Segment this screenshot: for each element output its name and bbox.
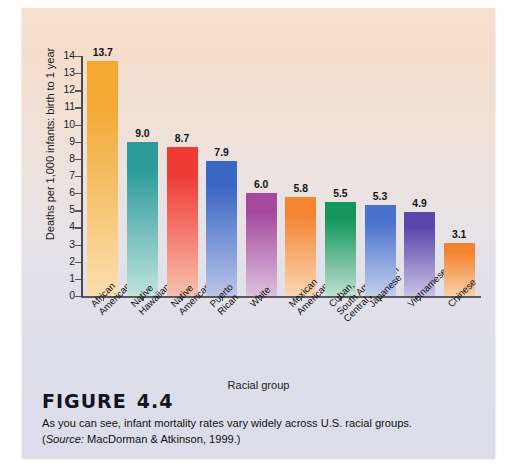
bar-slot[interactable]: 5.5Cuban,South American,Central American xyxy=(325,56,356,296)
y-tick-label: 3 xyxy=(55,239,75,250)
source-label: Source: xyxy=(46,433,84,445)
bar-slot[interactable]: 8.7NativeAmerican xyxy=(167,56,198,296)
bar[interactable] xyxy=(87,61,118,296)
figure-number: FIGURE4.4 xyxy=(42,390,482,412)
y-tick-label: 12 xyxy=(55,84,75,95)
figure-caption: FIGURE4.4 As you can see, infant mortali… xyxy=(42,390,482,447)
chart-plot-area: Deaths per 1,000 infants: birth to 1 yea… xyxy=(22,8,495,308)
bar-series: 13.7AfricanAmerican9.0NativeHawaiian8.7N… xyxy=(83,56,481,296)
bar-value-label: 3.1 xyxy=(435,229,484,240)
bar-value-label: 4.9 xyxy=(395,198,444,209)
y-tick-label: 14 xyxy=(55,50,75,61)
y-tick-label: 1 xyxy=(55,273,75,284)
y-tick-label: 8 xyxy=(55,153,75,164)
caption-source: (Source: MacDorman & Atkinson, 1999.) xyxy=(42,431,482,447)
y-tick-label: 9 xyxy=(55,136,75,147)
y-tick-label: 0 xyxy=(55,290,75,301)
source-citation: MacDorman & Atkinson, 1999.) xyxy=(84,433,241,445)
bar-value-label: 13.7 xyxy=(78,47,127,58)
bar-slot[interactable]: 4.9Vietnamese xyxy=(404,56,435,296)
bar-slot[interactable]: 13.7AfricanAmerican xyxy=(87,56,118,296)
y-tick-label: 11 xyxy=(55,101,75,112)
caption-body: As you can see, infant mortality rates v… xyxy=(42,415,482,447)
bar-slot[interactable]: 7.9PuertoRican xyxy=(206,56,237,296)
y-tick-label: 10 xyxy=(55,119,75,130)
figure-panel: Deaths per 1,000 infants: birth to 1 yea… xyxy=(22,8,495,458)
y-tick-label: 4 xyxy=(55,221,75,232)
bar-value-label: 8.7 xyxy=(158,133,207,144)
y-tick-label: 6 xyxy=(55,187,75,198)
y-tick-label: 7 xyxy=(55,170,75,181)
bar-slot[interactable]: 6.0White xyxy=(246,56,277,296)
caption-sentence: As you can see, infant mortality rates v… xyxy=(42,415,482,431)
y-tick-label: 5 xyxy=(55,204,75,215)
y-tick-label: 13 xyxy=(55,67,75,78)
bar[interactable] xyxy=(246,193,277,296)
bar-slot[interactable]: 5.8MexicanAmerican xyxy=(285,56,316,296)
bar[interactable] xyxy=(206,161,237,296)
bar-slot[interactable]: 9.0NativeHawaiian xyxy=(127,56,158,296)
figure-number-value: 4.4 xyxy=(137,390,174,412)
bar[interactable] xyxy=(127,142,158,296)
bar[interactable] xyxy=(167,147,198,296)
y-tick-label: 2 xyxy=(55,256,75,267)
bar-slot[interactable]: 5.3Japanese xyxy=(365,56,396,296)
bar-value-label: 7.9 xyxy=(197,147,246,158)
bar-slot[interactable]: 3.1Chinese xyxy=(444,56,475,296)
figure-number-word: FIGURE xyxy=(42,390,127,412)
